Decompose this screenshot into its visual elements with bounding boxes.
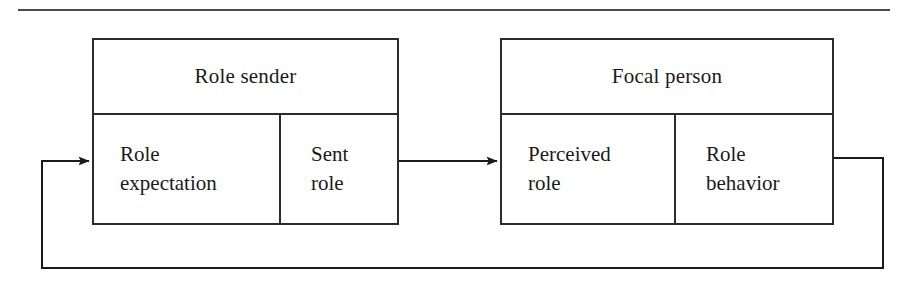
group-box-role-sender: Role sender Role expectation Sent role [92,38,399,225]
cell-perceived-role-line-2: role [528,169,561,198]
cell-row-role-sender: Role expectation Sent role [94,115,397,223]
cell-role-expectation-line-1: Role [120,140,160,169]
cell-role-behavior-line-2: behavior [706,169,779,198]
top-horizontal-rule [18,9,890,11]
group-header-role-sender: Role sender [94,40,397,115]
cell-role-expectation: Role expectation [94,115,279,223]
cell-role-expectation-line-2: expectation [120,169,217,198]
group-header-focal-person: Focal person [502,40,832,115]
cell-perceived-role-line-1: Perceived [528,140,611,169]
group-box-focal-person: Focal person Perceived role Role behavio… [500,38,834,225]
cell-row-focal-person: Perceived role Role behavior [502,115,832,223]
cell-sent-role: Sent role [279,115,397,223]
figure-canvas: Role sender Role expectation Sent role F… [0,0,911,294]
cell-perceived-role: Perceived role [502,115,674,223]
cell-sent-role-line-2: role [311,169,344,198]
cell-sent-role-line-1: Sent [311,140,348,169]
cell-role-behavior: Role behavior [674,115,832,223]
cell-role-behavior-line-1: Role [706,140,746,169]
